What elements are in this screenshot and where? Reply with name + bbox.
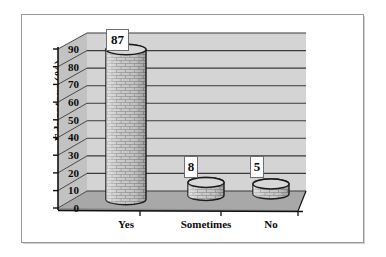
y-tick-80: 80 xyxy=(57,62,79,72)
bar-sometimes xyxy=(188,178,224,201)
chart-image: { "figure": { "axis_title": "Educators (… xyxy=(0,0,386,257)
x-label-sometimes: Sometimes xyxy=(168,218,244,230)
y-tick-30: 30 xyxy=(57,150,79,160)
floor-edge xyxy=(58,208,298,212)
data-label-sometimes: 8 xyxy=(184,156,198,178)
y-axis xyxy=(53,47,58,210)
y-tick-10: 10 xyxy=(57,185,79,195)
y-tick-40: 40 xyxy=(57,132,79,142)
y-tick-60: 60 xyxy=(57,97,79,107)
floor xyxy=(58,191,306,210)
back-wall xyxy=(87,33,306,191)
data-label-no: 5 xyxy=(250,156,264,178)
bar-no xyxy=(253,179,289,199)
x-axis xyxy=(58,191,306,216)
data-label-yes: 87 xyxy=(106,29,129,51)
y-tick-90: 90 xyxy=(57,44,79,54)
plot-area xyxy=(22,15,365,244)
depth-lines xyxy=(58,33,87,208)
y-tick-50: 50 xyxy=(57,115,79,125)
y-axis-title: Educators (%) xyxy=(52,46,67,156)
bar-yes xyxy=(106,44,146,204)
plot-3d-svg xyxy=(22,15,365,244)
gridlines xyxy=(87,33,306,191)
y-tick-labels: 90 80 70 60 50 40 30 20 10 0 xyxy=(55,15,79,244)
y-tick-20: 20 xyxy=(57,168,79,178)
left-wall xyxy=(58,33,87,208)
chart-frame: Educators (%) xyxy=(21,14,364,243)
y-tick-70: 70 xyxy=(57,79,79,89)
x-label-yes: Yes xyxy=(100,218,152,230)
y-tick-0: 0 xyxy=(57,203,79,213)
x-label-no: No xyxy=(248,218,294,230)
